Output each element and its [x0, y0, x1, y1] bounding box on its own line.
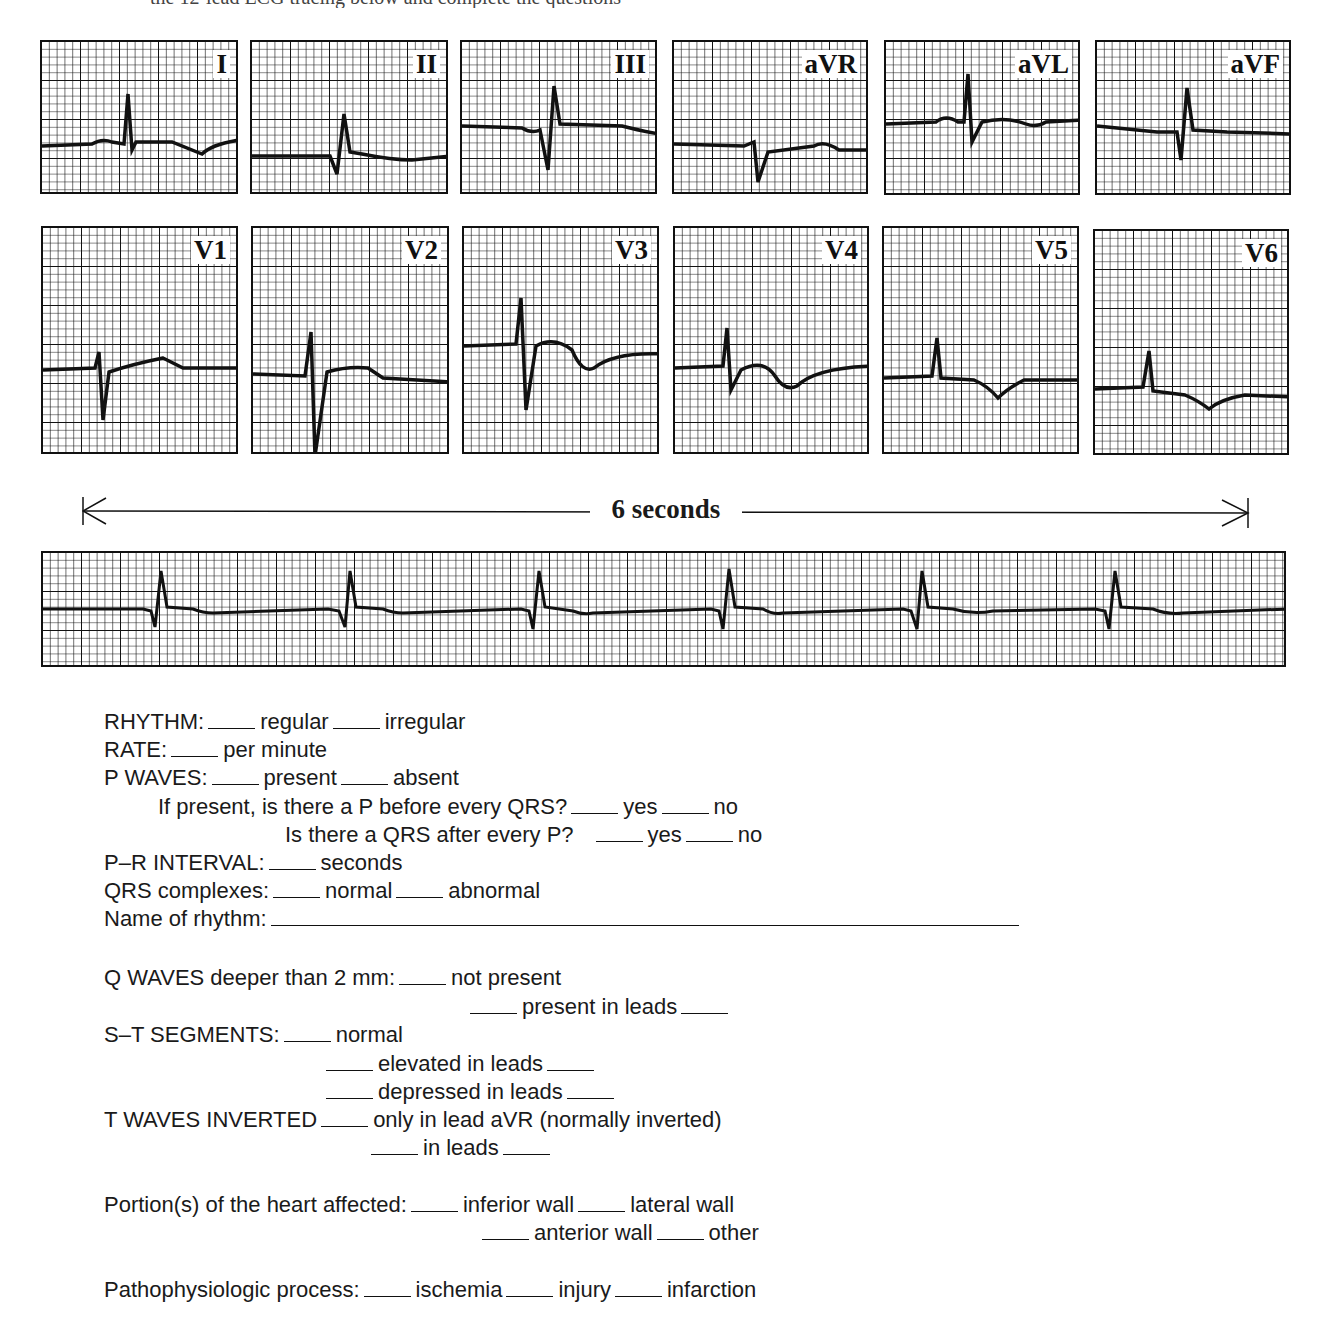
injury-blank[interactable] [506, 1278, 553, 1297]
lead-label: II [413, 50, 440, 78]
q-present-row: present in leads [466, 993, 733, 1022]
name-of-rhythm-row: Name of rhythm: [104, 905, 1024, 934]
st-segments-row: S–T SEGMENTS:normal [104, 1021, 403, 1050]
p-absent-blank[interactable] [341, 766, 388, 785]
qrs-normal-blank[interactable] [273, 879, 320, 898]
q-leads-blank[interactable] [681, 995, 728, 1014]
q-waves-row: Q WAVES deeper than 2 mm:not present [104, 964, 561, 993]
qrs-complexes-row: QRS complexes:normalabnormal [104, 877, 540, 906]
lead-label: aVF [1228, 50, 1284, 78]
rate-blank[interactable] [171, 738, 218, 757]
st-elevated-row: elevated in leads [322, 1050, 599, 1079]
other-blank[interactable] [657, 1221, 704, 1240]
lead-label: V5 [1032, 236, 1071, 264]
lead-label: V6 [1242, 239, 1281, 267]
qrs-after-p-row: Is there a QRS after every P?yesno [285, 821, 762, 850]
lead-panel-V2: V2 [251, 226, 449, 454]
ecg-trace-I [42, 42, 238, 194]
st-elevated-leads-blank[interactable] [547, 1052, 594, 1071]
p-before-qrs-no-blank[interactable] [662, 795, 709, 814]
st-depressed-blank[interactable] [326, 1080, 373, 1099]
p-before-qrs-row: If present, is there a P before every QR… [158, 793, 738, 822]
t-inverted-blank[interactable] [371, 1136, 418, 1155]
pr-interval-row: P–R INTERVAL:seconds [104, 849, 403, 878]
q-present-blank[interactable] [470, 995, 517, 1014]
lead-label: I [213, 50, 230, 78]
lateral-wall-blank[interactable] [578, 1193, 625, 1212]
cut-off-instructions: the 12-lead ECG tracing below and comple… [30, 0, 730, 8]
rate-row: RATE:per minute [104, 736, 327, 765]
lead-label: V1 [191, 236, 230, 264]
process-row: Pathophysiologic process:ischemiainjuryi… [104, 1276, 756, 1305]
lead-panel-aVL: aVL [884, 40, 1080, 195]
anterior-wall-blank[interactable] [482, 1221, 529, 1240]
st-depressed-row: depressed in leads [322, 1078, 619, 1107]
portions-row: Portion(s) of the heart affected:inferio… [104, 1191, 734, 1220]
rhythm-strip-trace [43, 553, 1286, 667]
portions-row-2: anterior wallother [478, 1219, 759, 1248]
lead-panel-I: I [40, 40, 238, 194]
t-leads-blank[interactable] [503, 1136, 550, 1155]
p-before-qrs-yes-blank[interactable] [571, 795, 618, 814]
t-leads-row: in leads [367, 1134, 555, 1163]
lead-panel-V4: V4 [673, 226, 869, 454]
ischemia-blank[interactable] [364, 1278, 411, 1297]
name-of-rhythm-blank[interactable] [271, 907, 1019, 926]
lead-panel-V5: V5 [882, 226, 1079, 454]
lead-panel-V3: V3 [462, 226, 659, 454]
rhythm-regular-blank[interactable] [208, 710, 255, 729]
infarction-blank[interactable] [615, 1278, 662, 1297]
lead-label: III [611, 50, 649, 78]
lead-panel-III: III [460, 40, 657, 194]
lead-panel-II: II [250, 40, 448, 194]
qrs-abnormal-blank[interactable] [396, 879, 443, 898]
t-waves-row: T WAVES INVERTEDonly in lead aVR (normal… [104, 1106, 722, 1135]
lead-label: aVL [1015, 50, 1072, 78]
st-normal-blank[interactable] [284, 1023, 331, 1042]
lead-label: V2 [402, 236, 441, 264]
qrs-after-p-no-blank[interactable] [686, 823, 733, 842]
q-not-present-blank[interactable] [399, 966, 446, 985]
lead-panel-V1: V1 [41, 226, 238, 454]
st-depressed-leads-blank[interactable] [567, 1080, 614, 1099]
six-second-marker: 6 seconds [82, 490, 1250, 530]
st-elevated-blank[interactable] [326, 1052, 373, 1071]
lead-label: V3 [612, 236, 651, 264]
inferior-wall-blank[interactable] [411, 1193, 458, 1212]
pr-interval-blank[interactable] [269, 851, 316, 870]
duration-label: 6 seconds [590, 494, 743, 524]
qrs-after-p-yes-blank[interactable] [596, 823, 643, 842]
t-avr-only-blank[interactable] [321, 1108, 368, 1127]
lead-panel-V6: V6 [1093, 229, 1289, 455]
rhythm-strip [41, 551, 1286, 667]
lead-label: V4 [822, 236, 861, 264]
rhythm-row: RHYTHM:regularirregular [104, 708, 465, 737]
lead-panel-aVR: aVR [672, 40, 868, 194]
rhythm-irregular-blank[interactable] [333, 710, 380, 729]
lead-panel-aVF: aVF [1095, 40, 1291, 195]
p-present-blank[interactable] [212, 766, 259, 785]
p-waves-row: P WAVES:presentabsent [104, 764, 459, 793]
lead-label: aVR [802, 50, 861, 78]
